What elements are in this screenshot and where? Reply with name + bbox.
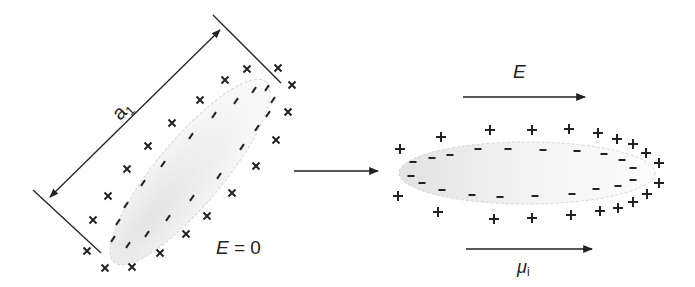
charge-cross [289,82,296,89]
charge-cross [285,109,292,116]
charge-cross [105,193,112,200]
charge-cross [169,120,176,127]
diagram-canvas: a1 E = 0 E μi [0,0,695,287]
charge-cross [253,163,260,170]
charge-cross [90,217,97,224]
charge-plus [641,148,651,158]
dimension-tick-top [213,15,281,83]
charge-cross [229,190,236,197]
dimension-label: a1 [107,96,138,127]
field-label: E [513,61,526,82]
charge-plus [654,178,664,188]
charge-cross [102,265,109,272]
charge-plus [613,203,623,213]
charge-cross [222,77,229,84]
charge-cross [145,143,152,150]
charge-plus [393,191,403,201]
charge-cross [244,66,251,73]
charge-plus [628,197,638,207]
charge-plus [395,144,405,154]
charge-minus [266,111,270,117]
charge-cross [84,248,91,255]
charge-cross [183,231,190,238]
charge-cross [204,213,211,220]
charge-cross [157,250,164,257]
charge-cross [275,65,282,72]
charge-plus [527,125,537,135]
particle-ellipse-polarized [399,142,655,204]
charge-plus [628,139,638,149]
charge-plus [564,124,574,134]
charge-minus [271,97,275,103]
charge-plus [595,206,605,216]
left-panel: a1 E = 0 [33,15,296,284]
charge-plus [654,158,664,168]
charge-plus [527,213,537,223]
field-zero-label: E = 0 [216,237,261,258]
charge-plus [566,210,576,220]
charge-cross [129,264,136,271]
dipole-moment-label: μi [516,257,530,279]
right-panel: E μi [393,61,664,279]
charge-plus [593,128,603,138]
charge-plus [612,134,622,144]
charge-cross [197,97,204,104]
charge-cross [124,166,131,173]
charge-plus [433,207,443,217]
charge-plus [485,125,495,135]
charge-plus [436,132,446,142]
charge-plus [642,189,652,199]
charge-plus [489,214,499,224]
charge-cross [273,137,280,144]
